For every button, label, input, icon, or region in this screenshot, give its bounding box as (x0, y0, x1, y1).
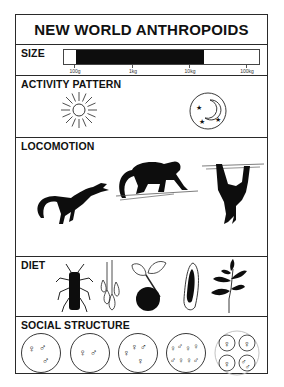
social-group-multimale: ♀ ♂ ♀ ♀ ♂ ♀ ♀ ♂ (165, 332, 207, 374)
svg-text:♀: ♀ (170, 344, 176, 353)
svg-text:★: ★ (196, 104, 202, 111)
tick-label: 100g (69, 68, 80, 74)
svg-text:♂: ♂ (42, 355, 50, 366)
size-range-bar: 100g 1kg 10kg 100kg (63, 49, 260, 65)
svg-text:♀: ♀ (123, 348, 130, 358)
svg-text:♂: ♂ (170, 356, 176, 365)
svg-text:♂: ♂ (245, 363, 250, 370)
activity-label: ACTIVITY PATTERN (21, 78, 121, 90)
social-label: SOCIAL STRUCTURE (21, 319, 130, 331)
social-group-polyandry: ♀ ♂ ♂ (20, 332, 62, 374)
fruit-icon (128, 259, 170, 313)
gum-exudate-icon (99, 260, 121, 314)
anthropoid-info-card: NEW WORLD ANTHROPOIDS SIZE 100g 1kg 10kg… (15, 14, 268, 374)
svg-text:♀: ♀ (185, 344, 191, 353)
tick-label: 100kg (240, 68, 254, 74)
svg-text:♂: ♂ (39, 342, 47, 353)
svg-text:♂: ♂ (90, 347, 98, 358)
svg-text:♂: ♂ (177, 342, 183, 351)
svg-text:♀: ♀ (224, 359, 231, 369)
locomotion-section: LOCOMOTION (16, 137, 267, 256)
moon-stars-icon: ★ ★ ★ (188, 91, 228, 131)
size-section: SIZE 100g 1kg 10kg 100kg (16, 44, 267, 75)
svg-text:♀: ♀ (186, 356, 192, 365)
svg-text:♀: ♀ (178, 356, 184, 365)
locomotion-label: LOCOMOTION (21, 140, 94, 152)
insect-icon (54, 262, 94, 314)
quadrupedal-monkey-icon (114, 158, 200, 208)
diet-section: DIET (16, 256, 267, 316)
diet-label: DIET (21, 259, 45, 271)
card-title: NEW WORLD ANTHROPOIDS (16, 15, 267, 44)
sun-icon (59, 90, 99, 130)
social-group-fission-fusion: ♀ ♀ ♀ ♂ ♂ (214, 330, 260, 376)
svg-text:♀: ♀ (28, 343, 36, 354)
svg-text:★: ★ (199, 118, 205, 125)
social-group-pair: ♀ ♂ (69, 332, 111, 374)
activity-section: ACTIVITY PATTERN ★ ★ ★ (16, 75, 267, 137)
svg-text:♀: ♀ (79, 347, 87, 358)
size-range-fill (76, 50, 204, 64)
size-label: SIZE (21, 47, 45, 59)
svg-text:♀: ♀ (193, 342, 199, 351)
suspensory-monkey-icon (202, 162, 264, 242)
svg-text:♂: ♂ (140, 342, 147, 352)
social-section: SOCIAL STRUCTURE ♀ ♂ ♂ ♀ ♂ ♀ ♀ ♂ ♀ ♀ ♂ ♀… (16, 316, 267, 375)
svg-text:♂: ♂ (193, 356, 199, 365)
social-group-polygyny: ♀ ♀ ♂ ♀ (117, 332, 159, 374)
leaves-icon (209, 259, 249, 315)
svg-text:♀: ♀ (137, 356, 144, 366)
svg-text:♀: ♀ (224, 339, 231, 349)
tick-label: 1kg (129, 68, 137, 74)
tick-label: 10kg (185, 68, 196, 74)
seed-icon (181, 261, 201, 313)
svg-text:♀: ♀ (244, 339, 251, 349)
svg-text:♀: ♀ (131, 342, 138, 352)
svg-text:★: ★ (215, 116, 221, 123)
leaping-monkey-icon (31, 178, 111, 228)
